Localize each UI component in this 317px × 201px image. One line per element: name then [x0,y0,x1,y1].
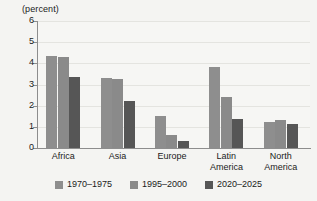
y-tick-label: 1 [20,122,34,131]
bar [275,120,286,148]
bar [209,67,220,148]
legend-item[interactable]: 1970–1975 [55,180,112,189]
y-tick-label: 5 [20,37,34,46]
chart-legend: 1970–19751995–20002020–2025 [0,180,317,189]
x-axis-label: Latin America [199,151,253,172]
x-axis-label: Asia [90,151,144,162]
legend-swatch-icon [205,181,213,189]
bar [287,124,298,148]
bars-layer [38,21,310,148]
legend-swatch-icon [55,181,63,189]
x-axis-line [37,148,311,149]
bar-group [264,21,298,148]
bar [58,57,69,148]
bar [46,56,57,148]
legend-swatch-icon [130,181,138,189]
bar [124,101,135,148]
bar [101,78,112,148]
y-tick-label: 4 [20,58,34,67]
bar [69,77,80,148]
legend-item[interactable]: 2020–2025 [205,180,262,189]
bar-group [46,21,80,148]
y-tick-label: 6 [20,16,34,25]
bar [221,97,232,148]
bar-group [209,21,243,148]
y-tick-label: 3 [20,80,34,89]
bar [264,122,275,148]
y-tick-label: 2 [20,101,34,110]
legend-label: 2020–2025 [217,180,262,189]
chart-figure: (percent) 0123456 AfricaAsiaEuropeLatin … [0,0,317,201]
y-tick-label: 0 [20,143,34,152]
bar [166,135,177,148]
bar [155,116,166,148]
bar [232,119,243,148]
x-axis-label: Europe [145,151,199,162]
bar-group [101,21,135,148]
legend-item[interactable]: 1995–2000 [130,180,187,189]
bar-group [155,21,189,148]
x-axis-label: Africa [36,151,90,162]
x-axis-label: North America [254,151,308,172]
y-axis-title: (percent) [22,4,59,14]
legend-label: 1995–2000 [142,180,187,189]
bar [178,141,189,148]
bar [112,79,123,148]
legend-label: 1970–1975 [67,180,112,189]
